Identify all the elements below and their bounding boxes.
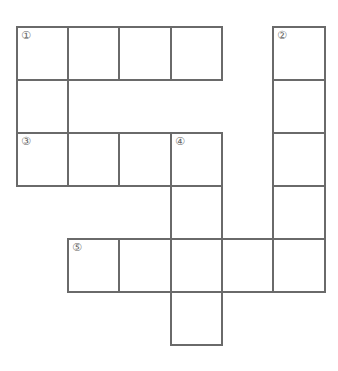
grid-cell[interactable]: [118, 26, 172, 81]
grid-cell[interactable]: [272, 79, 326, 134]
grid-cell[interactable]: ⑤: [67, 238, 120, 293]
grid-cell[interactable]: [170, 185, 223, 240]
grid-cell[interactable]: [221, 238, 274, 293]
clue-number: ③: [21, 135, 31, 148]
grid-cell[interactable]: [67, 26, 120, 81]
grid-cell[interactable]: [272, 185, 326, 240]
grid-cell[interactable]: [118, 132, 172, 187]
grid-cell[interactable]: [272, 238, 326, 293]
grid-cell[interactable]: ③: [16, 132, 69, 187]
clue-number: ①: [21, 29, 31, 42]
grid-cell[interactable]: [272, 132, 326, 187]
grid-cell[interactable]: ①: [16, 26, 69, 81]
crossword-grid: ①②③④⑤: [0, 0, 338, 371]
clue-number: ②: [277, 29, 287, 42]
grid-cell[interactable]: [67, 132, 120, 187]
grid-cell[interactable]: [170, 291, 223, 346]
grid-cell[interactable]: ②: [272, 26, 326, 81]
grid-cell[interactable]: [16, 79, 69, 134]
grid-cell[interactable]: ④: [170, 132, 223, 187]
clue-number: ④: [175, 135, 185, 148]
grid-cell[interactable]: [170, 238, 223, 293]
grid-cell[interactable]: [170, 26, 223, 81]
grid-cell[interactable]: [118, 238, 172, 293]
clue-number: ⑤: [72, 241, 82, 254]
